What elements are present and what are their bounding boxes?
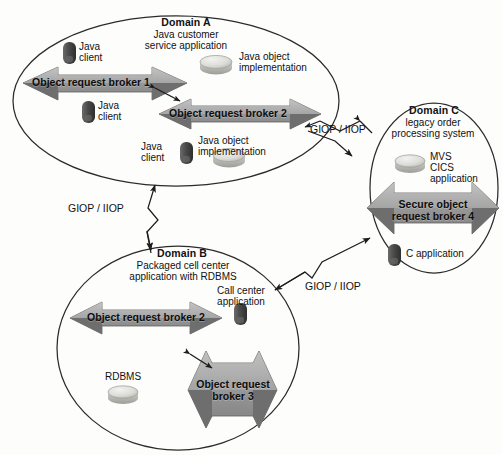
domain-c-title: Domain C — [398, 105, 470, 116]
orb2-orb3-link — [190, 354, 212, 368]
domain-b-title: Domain B — [146, 248, 218, 259]
domain-a-subtitle: Java customer service application — [131, 30, 241, 52]
mvs-cics-application-label: MVS CICS application — [430, 152, 498, 184]
client-icon-c-application — [388, 244, 401, 266]
disk-icon-rdbms — [108, 386, 138, 404]
object-request-broker-3-label: Object request broker 3 — [189, 379, 277, 403]
client-icon-java-client-3 — [180, 142, 193, 164]
client-icon-java-client-2 — [82, 101, 95, 123]
secure-object-request-broker-4-label: Secure object request broker 4 — [378, 199, 488, 223]
client-icon-java-client-1 — [63, 42, 76, 64]
java-object-implementation-1-label: Java object implementation — [239, 52, 331, 74]
c-application-label: C application — [406, 249, 480, 260]
connector-a-b — [147, 185, 158, 253]
object-request-broker-2-domain-b-label: Object request broker 2 — [81, 312, 211, 324]
object-request-broker-2-domain-a-label: Object request broker 2 — [163, 108, 293, 120]
domain-c-subtitle: legacy order processing system — [377, 118, 489, 140]
giop-iiop-a-to-b-label: GIOP / IIOP — [68, 203, 142, 214]
object-request-broker-1-label: Object request broker 1 — [26, 77, 156, 89]
java-object-implementation-2-label: Java object implementation — [198, 136, 290, 158]
giop-iiop-a-to-c-label: GIOP / IIOP — [310, 124, 384, 135]
disk-icon-java-object-implementation-1 — [200, 55, 232, 74]
orb1-orb2-link — [155, 88, 180, 101]
call-center-application-label: Call center application — [199, 286, 283, 308]
domain-a-title: Domain A — [150, 17, 222, 28]
java-client-1-label: Java client — [79, 42, 123, 64]
java-client-2-label: Java client — [98, 101, 142, 123]
domain-b-subtitle: Packaged cell center application with RD… — [113, 261, 253, 283]
java-client-3-label: Java client — [141, 142, 181, 164]
rdbms-label: RDBMS — [93, 372, 153, 383]
diagram-canvas: Domain A Java customer service applicati… — [0, 0, 502, 455]
giop-iiop-b-to-c-label: GIOP / IIOP — [305, 281, 379, 292]
disk-icon-mvs-cics-application — [395, 155, 425, 173]
